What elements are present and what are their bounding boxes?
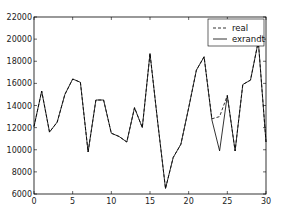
legend: real exrandt bbox=[208, 19, 266, 46]
y-tick-label: 14000 bbox=[7, 102, 32, 111]
y-tick-label: 18000 bbox=[7, 57, 32, 66]
x-tick-label: 20 bbox=[184, 197, 194, 206]
x-tick-label: 25 bbox=[222, 197, 232, 206]
y-tick-label: 6000 bbox=[12, 190, 32, 199]
x-tick-label: 15 bbox=[145, 197, 155, 206]
y-tick-label: 10000 bbox=[7, 146, 32, 155]
line-chart: 6000800010000120001400016000180002000022… bbox=[0, 0, 282, 216]
y-tick-label: 16000 bbox=[7, 79, 32, 88]
x-tick-label: 10 bbox=[106, 197, 116, 206]
legend-label-exrandt: exrandt bbox=[232, 34, 266, 44]
y-tick-label: 12000 bbox=[7, 124, 32, 133]
legend-label-real: real bbox=[232, 23, 248, 33]
x-tick-label: 0 bbox=[31, 197, 36, 206]
y-tick-label: 20000 bbox=[7, 35, 32, 44]
x-tick-label: 30 bbox=[261, 197, 271, 206]
y-tick-label: 22000 bbox=[7, 13, 32, 22]
y-tick-label: 8000 bbox=[12, 168, 32, 177]
x-tick-label: 5 bbox=[70, 197, 75, 206]
